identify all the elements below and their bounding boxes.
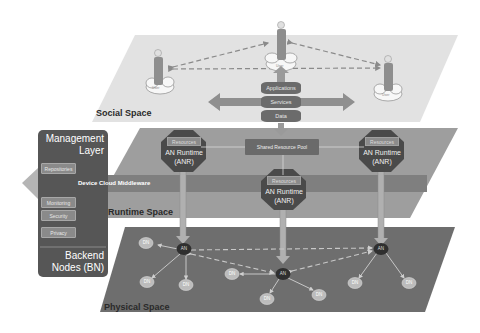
anr-title-left: AN Runtime: [161, 148, 207, 157]
monitoring-box: Monitoring: [41, 197, 76, 208]
user-label: User: [152, 86, 159, 90]
anr-title-right: AN Runtime: [359, 148, 405, 157]
stack-applications: Applications: [261, 82, 301, 94]
anr-resources-center: Resources: [267, 176, 301, 185]
backend-nodes-title-2: Nodes (BN): [40, 262, 104, 274]
dn-node-label: DN: [224, 270, 240, 278]
runtime-space-label: Runtime Space: [108, 207, 173, 217]
security-box: Security: [41, 210, 76, 221]
anr-resources-right: Resources: [365, 137, 399, 146]
anr-resources-left: Resources: [167, 137, 201, 146]
physical-space-label: Physical Space: [104, 302, 170, 312]
dn-node-label: DN: [259, 295, 275, 303]
dn-node-label: DN: [138, 239, 154, 247]
social-space-label: Social Space: [96, 108, 152, 118]
anr-subtitle-center: (ANR): [261, 196, 307, 205]
user-icon-center: [277, 22, 286, 61]
user-label: User: [276, 64, 283, 68]
an-node-label: AN: [373, 245, 389, 253]
backend-nodes-title-1: Backend: [40, 250, 104, 262]
stack-data: Data: [261, 110, 301, 122]
repositories-box: Repositories: [41, 163, 76, 174]
privacy-box: Privacy: [41, 227, 76, 238]
management-layer-title-1: Management: [40, 133, 104, 145]
anr-title-center: AN Runtime: [261, 187, 307, 196]
shared-resource-pool: Shared Resource Pool: [245, 139, 319, 155]
stack-services: Services: [261, 96, 301, 108]
dn-node-label: DN: [347, 279, 363, 287]
an-node-label: AN: [176, 245, 192, 253]
anr-subtitle-right: (ANR): [359, 157, 405, 166]
user-label: User: [382, 93, 389, 97]
dn-node-label: DN: [139, 278, 155, 286]
dn-node-label: DN: [401, 279, 417, 287]
dn-node-label: DN: [178, 281, 194, 289]
an-node-label: AN: [275, 270, 291, 278]
architecture-diagram: Social Space User User User Applications…: [0, 0, 480, 333]
device-cloud-middleware-label: Device Cloud Middleware: [78, 180, 150, 186]
anr-subtitle-left: (ANR): [161, 157, 207, 166]
management-layer-title-2: Layer: [40, 145, 104, 157]
dn-node-label: DN: [311, 291, 327, 299]
